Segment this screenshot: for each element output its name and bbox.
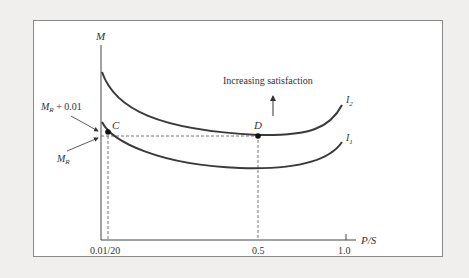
curve-i1 [102, 122, 342, 168]
curve-label-i1: I1 [345, 132, 353, 146]
point-c [105, 129, 111, 135]
x-tick-label-1: 1.0 [338, 245, 351, 256]
x-tick-label-05: 0.5 [252, 245, 265, 256]
point-label-d: D [253, 119, 262, 131]
mr-plus-label: MR + 0.01 [40, 101, 82, 114]
y-axis-label: M [95, 30, 106, 42]
curve-label-i2: I2 [345, 94, 353, 108]
point-label-c: C [112, 119, 120, 131]
mr-arrow-icon [67, 138, 98, 151]
x-axis-label: P/S [360, 234, 377, 246]
indifference-diagram: M P/S 0.01/20 0.5 1.0 I2 I1 C D Increasi… [0, 0, 469, 278]
increasing-satisfaction-label: Increasing satisfaction [223, 75, 313, 86]
mr-plus-arrow-icon [71, 116, 98, 131]
x-tick-label-0: 0.01/20 [90, 245, 120, 256]
point-d [255, 133, 261, 139]
mr-label: MR [56, 153, 70, 166]
